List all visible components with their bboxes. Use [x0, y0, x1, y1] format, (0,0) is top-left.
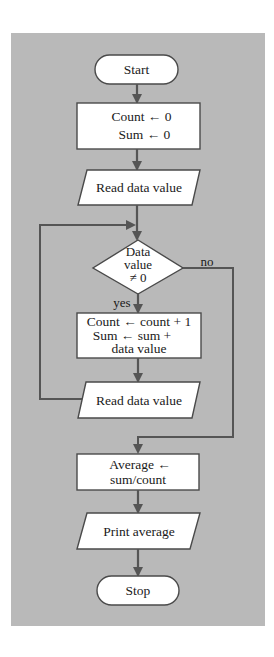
yes-text: yes — [113, 295, 130, 310]
read1-label: Read data value — [80, 180, 198, 195]
start-label: Start — [95, 62, 178, 77]
read2-label: Read data value — [80, 393, 198, 408]
stop-label: Stop — [97, 583, 179, 598]
init-count-text: Count ← 0 — [77, 108, 200, 126]
decision-line-3: ≠ 0 — [98, 271, 178, 284]
init-label: Count ← 0 Sum ← 0 — [77, 108, 200, 144]
average-line-2: sum/count — [77, 472, 199, 487]
accumulate-label: Count ← count + 1 Sum ← sum + data value — [77, 315, 201, 356]
print-label: Print average — [80, 524, 198, 539]
accumulate-data-text: data value — [77, 342, 201, 356]
decision-label: Data value ≠ 0 — [98, 245, 178, 284]
accumulate-count-text: Count ← count + 1 — [77, 315, 201, 329]
no-text: no — [201, 254, 214, 269]
init-sum-text: Sum ← 0 — [77, 126, 200, 144]
print-text: Print average — [103, 524, 175, 539]
accumulate-sum-text: Sum ← sum + — [77, 329, 201, 343]
yes-edge-label: yes — [110, 295, 134, 310]
flowchart-canvas: Start Count ← 0 Sum ← 0 Read data value … — [0, 0, 274, 657]
stop-text: Stop — [126, 583, 151, 598]
read2-text: Read data value — [96, 393, 182, 408]
no-edge-label: no — [195, 254, 219, 269]
read1-text: Read data value — [96, 180, 182, 195]
average-line-1: Average ← — [77, 457, 199, 472]
start-text: Start — [124, 62, 150, 77]
average-label: Average ← sum/count — [77, 457, 199, 487]
edge-decision-no — [138, 268, 233, 452]
